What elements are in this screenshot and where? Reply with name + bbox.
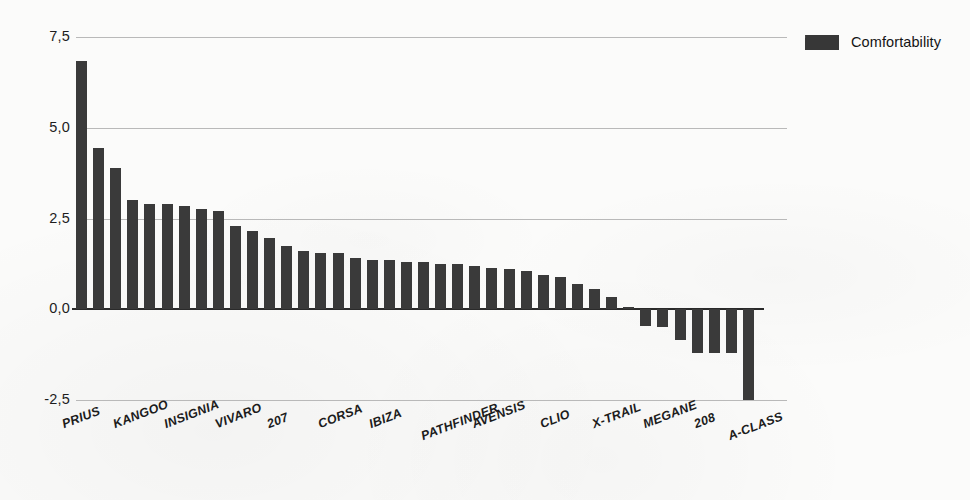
legend-label-comfortability: Comfortability	[851, 34, 941, 50]
x-axis-label: X-TRAIL	[590, 400, 643, 431]
x-axis-label: INSIGNIA	[162, 397, 221, 431]
x-axis-label: KANGOO	[111, 397, 170, 431]
x-axis-label: CLIO	[538, 407, 572, 431]
x-axis-label: 208	[692, 410, 717, 431]
x-axis-label: MEGANE	[641, 398, 699, 431]
x-axis-label: 207	[265, 410, 290, 431]
x-axis-label: CORSA	[316, 401, 365, 431]
x-axis-label: PRIUS	[60, 404, 102, 431]
chart-legend: Comfortability	[805, 34, 941, 50]
x-axis-label: VIVARO	[213, 401, 264, 432]
chart-canvas: 7,55,02,50,0-2,5 PRIUSKANGOOINSIGNIAVIVA…	[0, 0, 970, 500]
x-axis-labels: PRIUSKANGOOINSIGNIAVIVARO207CORSAIBIZAPA…	[0, 0, 970, 500]
legend-swatch-comfortability	[805, 35, 839, 50]
x-axis-label: AVENSIS	[470, 398, 527, 431]
x-axis-label: IBIZA	[367, 406, 404, 431]
x-axis-label: A-CLASS	[726, 409, 785, 443]
